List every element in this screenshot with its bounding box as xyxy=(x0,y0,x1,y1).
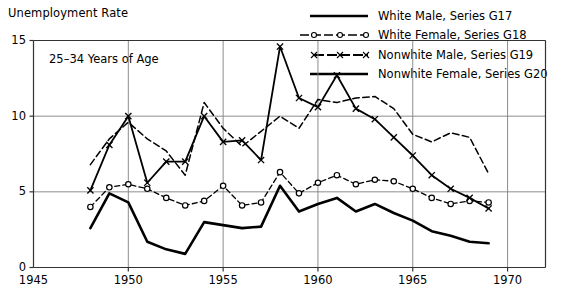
y-tick-label: 10 xyxy=(4,109,26,123)
x-tick-label: 1945 xyxy=(14,273,54,287)
plot-frame xyxy=(30,41,546,272)
chart-root: Unemployment Rate 25–34 Years of Age Whi… xyxy=(0,0,561,297)
x-tick-label: 1960 xyxy=(298,273,338,287)
series-G20 xyxy=(90,96,488,175)
x-tick-label: 1965 xyxy=(393,273,433,287)
x-tick-label: 1955 xyxy=(203,273,243,287)
y-tick-label: 15 xyxy=(4,33,26,47)
x-tick-label: 1970 xyxy=(488,273,528,287)
y-tick-label: 5 xyxy=(4,184,26,198)
plot-area xyxy=(0,0,561,297)
plot-svg xyxy=(0,0,561,297)
x-tick-label: 1950 xyxy=(108,273,148,287)
